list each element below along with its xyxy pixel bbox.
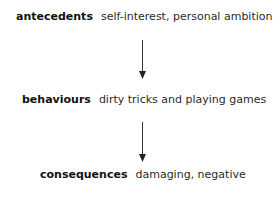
- node-description: dirty tricks and playing games: [99, 93, 266, 106]
- node-term: behaviours: [22, 93, 91, 106]
- node-description: damaging, negative: [135, 168, 245, 181]
- node-antecedents: antecedentsself-interest, personal ambit…: [16, 10, 273, 24]
- node-term: consequences: [40, 168, 127, 181]
- node-behaviours: behavioursdirty tricks and playing games: [22, 93, 266, 107]
- node-description: self-interest, personal ambition: [101, 10, 273, 23]
- arrow-down-icon: [139, 122, 146, 162]
- node-consequences: consequencesdamaging, negative: [40, 168, 246, 182]
- node-term: antecedents: [16, 10, 93, 23]
- arrow-down-icon: [139, 40, 146, 79]
